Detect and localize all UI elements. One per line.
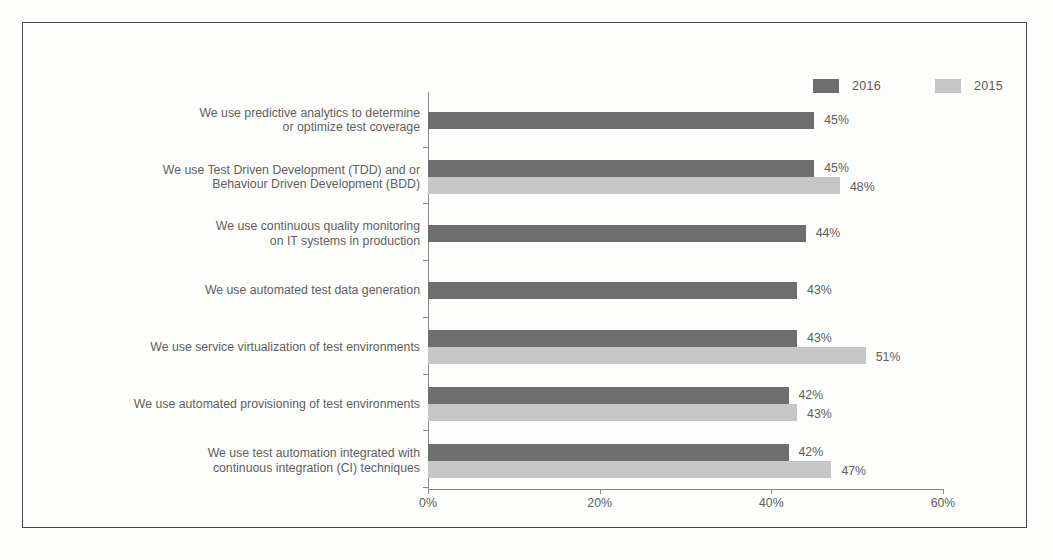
data-label-2016: 44% — [816, 225, 841, 242]
bar-2016 — [428, 160, 814, 177]
bar-2016 — [428, 225, 806, 242]
bar-2016 — [428, 112, 814, 129]
bar-2016 — [428, 387, 789, 404]
data-label-2015: 51% — [876, 349, 901, 366]
data-label-2016: 43% — [807, 282, 832, 299]
category-label: We use continuous quality monitoring on … — [216, 219, 420, 248]
y-axis-tick — [423, 260, 428, 261]
y-axis-tick — [423, 374, 428, 375]
y-axis-tick — [423, 430, 428, 431]
x-axis-line — [428, 489, 944, 490]
data-label-2015: 48% — [850, 179, 875, 196]
category-label: We use test automation integrated with c… — [208, 446, 420, 475]
x-axis-tick — [428, 489, 429, 494]
bar-2015 — [428, 404, 797, 421]
bar-2016 — [428, 282, 797, 299]
data-label-2016: 45% — [824, 112, 849, 129]
category-label: We use service virtualization of test en… — [150, 340, 420, 355]
bar-2015 — [428, 177, 840, 194]
chart-plot-area: 0%20%40%60%We use predictive analytics t… — [0, 0, 1053, 560]
data-label-2016: 43% — [807, 330, 832, 347]
x-axis-tick-label: 40% — [759, 496, 784, 510]
data-label-2016: 42% — [799, 387, 824, 404]
category-label: We use predictive analytics to determine… — [199, 106, 420, 135]
x-axis-tick — [600, 489, 601, 494]
data-label-2015: 47% — [841, 463, 866, 480]
category-label: We use Test Driven Development (TDD) and… — [163, 163, 420, 192]
bar-2015 — [428, 347, 866, 364]
x-axis-tick — [771, 489, 772, 494]
y-axis-tick — [423, 487, 428, 488]
data-label-2015: 43% — [807, 406, 832, 423]
y-axis-tick — [423, 147, 428, 148]
x-axis-tick-label: 20% — [587, 496, 612, 510]
bar-2016 — [428, 330, 797, 347]
category-label: We use automated test data generation — [205, 283, 420, 298]
category-label: We use automated provisioning of test en… — [134, 397, 420, 412]
x-axis-tick-label: 0% — [419, 496, 437, 510]
bar-2015 — [428, 461, 831, 478]
data-label-2016: 42% — [799, 444, 824, 461]
x-axis-tick — [943, 489, 944, 494]
x-axis-tick-label: 60% — [931, 496, 956, 510]
y-axis-tick — [423, 203, 428, 204]
y-axis-tick — [423, 317, 428, 318]
data-label-2016: 45% — [824, 160, 849, 177]
bar-2016 — [428, 444, 789, 461]
